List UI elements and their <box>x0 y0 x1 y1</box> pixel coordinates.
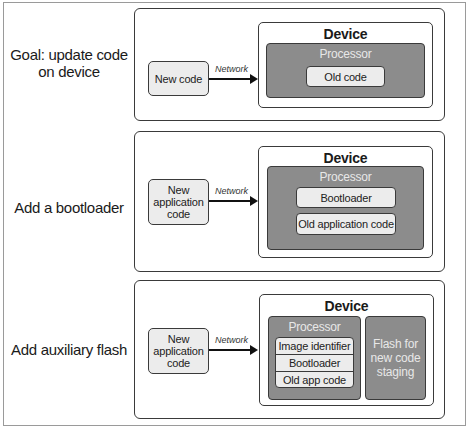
arrow-head-icon <box>250 345 258 355</box>
flash-line: new code <box>371 351 421 365</box>
row-label-goal: Goal: update code on device <box>6 46 132 80</box>
device-title: Device <box>260 298 433 314</box>
processor-memory-stack: Image identifier Bootloader Old app code <box>275 337 354 388</box>
new-application-code-box: New application code <box>148 179 209 225</box>
device-title: Device <box>259 150 432 166</box>
bootloader-label: Bootloader <box>320 192 371 204</box>
bootloader-box: Bootloader <box>296 187 396 208</box>
flash-label: Flash for new code staging <box>371 337 421 379</box>
source-line: New <box>153 184 203 196</box>
network-label: Network <box>215 186 248 196</box>
processor-title: Processor <box>267 47 424 61</box>
old-code-label: Old code <box>324 71 366 83</box>
flash-line: staging <box>371 365 421 379</box>
row-label-line: on device <box>6 63 132 80</box>
network-label: Network <box>215 64 248 74</box>
bootloader-cell: Bootloader <box>276 355 353 372</box>
row-label-auxiliary-flash: Add auxiliary flash <box>6 341 132 358</box>
new-code-label: New code <box>155 73 202 85</box>
source-line: code <box>153 208 203 220</box>
image-identifier-cell: Image identifier <box>276 338 353 355</box>
flash-staging-box: Flash for new code staging <box>365 316 426 400</box>
flash-line: Flash for <box>371 337 421 351</box>
source-label: New application code <box>153 184 203 220</box>
processor-title: Processor <box>268 170 423 184</box>
old-application-code-label: Old application code <box>298 218 394 230</box>
source-line: application <box>153 345 203 357</box>
new-application-code-box: New application code <box>148 328 209 374</box>
row-label-bootloader: Add a bootloader <box>6 199 132 216</box>
network-arrow <box>209 349 251 351</box>
network-arrow <box>209 78 251 80</box>
processor-box: Processor <box>267 166 424 250</box>
device-title: Device <box>259 26 432 42</box>
old-application-code-box: Old application code <box>296 213 396 235</box>
source-line: application <box>153 196 203 208</box>
row-label-line: Goal: update code <box>6 46 132 63</box>
network-arrow <box>209 200 251 202</box>
source-label: New application code <box>153 333 203 369</box>
source-line: code <box>153 357 203 369</box>
arrow-head-icon <box>250 196 258 206</box>
source-line: New <box>153 333 203 345</box>
old-code-box: Old code <box>306 66 385 87</box>
arrow-head-icon <box>250 74 258 84</box>
new-code-box: New code <box>148 61 209 96</box>
processor-title: Processor <box>269 320 360 334</box>
network-label: Network <box>215 335 248 345</box>
old-app-code-cell: Old app code <box>276 372 353 388</box>
